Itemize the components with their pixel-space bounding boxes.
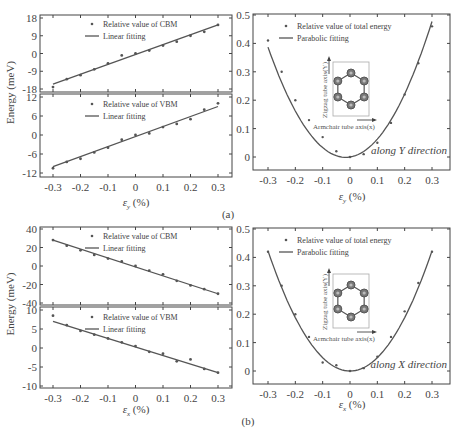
data-point [349, 156, 351, 158]
data-point [267, 39, 269, 41]
legend-dot-icon [91, 23, 94, 26]
data-point [217, 371, 220, 374]
data-point [107, 257, 110, 260]
y-tick-label: 9 [32, 30, 38, 42]
x-tick-label: 0.2 [184, 181, 198, 193]
b-cbm-plot: 40200-20-40Relative value of CBMLinear f… [22, 223, 232, 309]
data-point [175, 279, 178, 282]
data-point [417, 282, 419, 284]
zigzag-axis-label: Zigzag tube axis(Y) [321, 61, 329, 118]
data-point [203, 108, 206, 111]
y-tick-label: 0 [32, 129, 38, 141]
data-point [403, 310, 405, 312]
data-point [403, 93, 405, 95]
legend-label: Relative value of CBM [103, 20, 177, 29]
data-point [189, 358, 192, 361]
data-point [79, 249, 82, 252]
x-axis-label: εx (%) [339, 398, 366, 413]
data-point [203, 368, 206, 371]
x-tick-label: 0 [347, 174, 353, 186]
data-point [79, 330, 82, 333]
data-point [321, 136, 323, 138]
data-point [335, 364, 337, 366]
y-tick-label: 0.3 [236, 66, 250, 78]
x-tick-label: 0.3 [425, 174, 439, 186]
y-tick-label: 0.1 [236, 123, 250, 135]
armchair-axis-label: Armchair tube axis(x) [313, 123, 375, 131]
data-point [417, 62, 419, 64]
y-tick-label: 0.2 [236, 94, 250, 106]
data-point [79, 157, 82, 160]
data-point [93, 254, 96, 257]
legend-label: Linear fitting [103, 325, 145, 334]
data-point [217, 292, 220, 295]
data-point [294, 313, 296, 315]
x-tick-label: 0 [133, 181, 139, 193]
data-point [52, 314, 55, 317]
legend-label: Relative value of total energy [297, 22, 391, 31]
x-axis-label: εy (%) [339, 190, 366, 205]
armchair-axis-label: Armchair tube axis(x) [313, 335, 375, 343]
x-tick-label: -0.3 [259, 388, 277, 400]
a-cbm-plot: 1890-9-18Relative value of CBMLinear fit… [22, 12, 232, 95]
data-point [52, 167, 55, 170]
data-point [390, 122, 392, 124]
y-tick-label: -5 [28, 361, 38, 373]
legend-label: Parabolic fitting [297, 248, 349, 257]
data-point [349, 370, 351, 372]
x-tick-label: 0.3 [425, 388, 439, 400]
y-tick-label: 10 [26, 304, 38, 316]
y-tick-label: 20 [26, 242, 38, 254]
data-point [203, 288, 206, 291]
data-point [280, 71, 282, 73]
data-point [162, 273, 165, 276]
y-axis-label: Energy (meV) [4, 61, 17, 124]
y-tick-label: 0.3 [236, 280, 250, 292]
y-axis-label: Energy (meV) [4, 272, 17, 335]
y-tick-label: 0 [245, 151, 251, 163]
y-tick-label: 0.5 [236, 223, 250, 235]
legend-dot-icon [285, 25, 288, 28]
legend-dot-icon [285, 239, 288, 242]
data-point [189, 284, 192, 287]
data-point [431, 25, 433, 27]
data-point [362, 153, 364, 155]
data-point [65, 324, 68, 327]
data-point [65, 161, 68, 164]
data-point [217, 102, 220, 105]
data-point [431, 251, 433, 253]
y-tick-label: 0 [32, 260, 38, 272]
y-tick-label: 0 [245, 365, 251, 377]
x-tick-label: -0.3 [44, 392, 62, 404]
legend-label: Parabolic fitting [297, 34, 349, 43]
y-tick-label: 18 [26, 12, 38, 24]
x-tick-label: -0.2 [287, 174, 304, 186]
data-point [203, 30, 206, 33]
data-point [120, 341, 123, 344]
x-tick-label: -0.2 [72, 392, 89, 404]
data-point [93, 151, 96, 154]
y-tick-label: -12 [22, 167, 37, 179]
data-point [148, 350, 151, 353]
data-point [134, 52, 137, 55]
data-point [175, 360, 178, 363]
x-tick-label: 0.1 [156, 392, 170, 404]
x-tick-label: -0.3 [44, 181, 62, 193]
y-tick-label: 6 [32, 110, 38, 122]
legend-label: Relative value of CBM [103, 232, 177, 241]
y-tick-label: 0 [32, 342, 38, 354]
data-point [79, 74, 82, 77]
a-vbm-plot: -0.3-0.2-0.100.10.20.31260-6-12Relative … [4, 61, 232, 211]
data-point [148, 269, 151, 272]
x-tick-label: -0.1 [314, 174, 331, 186]
data-point [162, 44, 165, 47]
data-point [280, 285, 282, 287]
data-point [65, 244, 68, 247]
figure: 1890-9-18Relative value of CBMLinear fit… [0, 0, 455, 434]
caption-a: (a) [222, 208, 235, 221]
x-tick-label: 0.1 [370, 174, 384, 186]
legend-dot-icon [91, 316, 94, 319]
y-tick-label: 5 [32, 323, 38, 335]
y-tick-label: 0.4 [236, 251, 250, 263]
hexagon-bonds [338, 285, 364, 317]
